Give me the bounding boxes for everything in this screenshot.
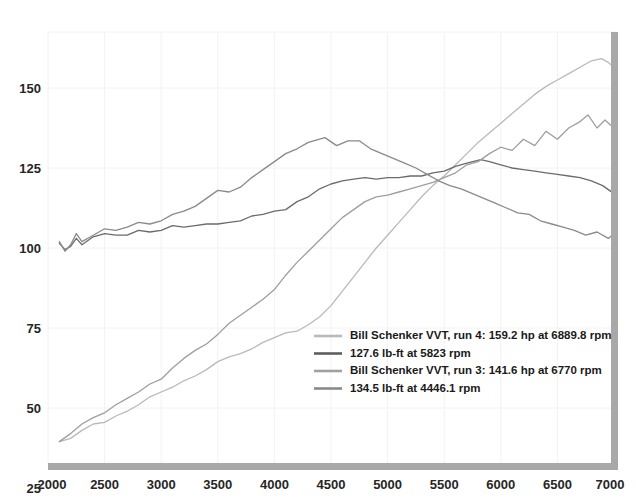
x-tick-label: 2000 — [38, 477, 67, 492]
x-axis-bar — [48, 463, 618, 470]
legend-label: Bill Schenker VVT, run 4: 159.2 hp at 68… — [350, 329, 611, 341]
x-tick-label: 4000 — [260, 477, 289, 492]
x-tick-label: 7000 — [596, 477, 625, 492]
x-tick-label: 4500 — [317, 477, 346, 492]
y-tick-label: 100 — [19, 241, 41, 256]
y-tick-label: 50 — [27, 401, 41, 416]
x-tick-label: 6500 — [543, 477, 572, 492]
x-tick-label: 3000 — [147, 477, 176, 492]
y-tick-label: 150 — [19, 81, 41, 96]
y-tick-label: 75 — [27, 321, 41, 336]
right-axis-bar — [611, 32, 618, 470]
x-tick-label: 6000 — [486, 477, 515, 492]
x-tick-label: 3500 — [203, 477, 232, 492]
dyno-chart: 255075100125150 200025003000350040004500… — [0, 0, 636, 501]
chart-background — [0, 0, 636, 501]
legend-label: 134.5 lb-ft at 4446.1 rpm — [350, 382, 480, 394]
legend-label: Bill Schenker VVT, run 3: 141.6 hp at 67… — [350, 364, 602, 376]
legend-label: 127.6 lb-ft at 5823 rpm — [350, 347, 471, 359]
x-tick-label: 2500 — [90, 477, 119, 492]
x-tick-label: 5500 — [430, 477, 459, 492]
y-tick-label: 125 — [19, 161, 41, 176]
x-tick-label: 5000 — [373, 477, 402, 492]
